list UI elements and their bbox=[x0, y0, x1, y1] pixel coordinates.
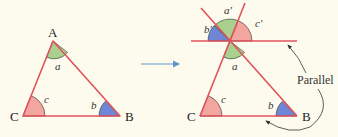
angle-a-prime-label: a′ bbox=[224, 4, 233, 16]
angle-b-prime-label: b′ bbox=[204, 23, 213, 35]
angle-c-label: c bbox=[221, 93, 226, 105]
parallel-pointer-arrow-bottom bbox=[266, 89, 323, 130]
vertex-b-label: B bbox=[125, 109, 134, 124]
angle-a-label: a bbox=[55, 60, 61, 72]
angle-c-prime-label: c′ bbox=[255, 17, 263, 29]
right-triangle: C B a c b a′ b′ c′ Parallel bbox=[187, 3, 334, 130]
angle-b-label: b bbox=[268, 99, 274, 111]
angle-a-label: a bbox=[232, 60, 238, 72]
angle-c-label: c bbox=[44, 93, 49, 105]
side-ba-extended bbox=[201, 8, 297, 116]
triangle-angle-sum-diagram: A C B a c b C B a c b a′ bbox=[0, 0, 338, 137]
vertex-c-label: C bbox=[10, 109, 19, 124]
parallel-pointer-arrow-top bbox=[288, 45, 306, 73]
left-triangle: A C B a c b bbox=[10, 25, 134, 124]
vertex-c-label: C bbox=[187, 109, 196, 124]
diagram-canvas: A C B a c b C B a c b a′ bbox=[0, 0, 338, 137]
angle-b-label: b bbox=[91, 99, 97, 111]
parallel-annotation-label: Parallel bbox=[297, 73, 334, 87]
vertex-a-label: A bbox=[48, 25, 58, 40]
vertex-b-label: B bbox=[302, 109, 311, 124]
